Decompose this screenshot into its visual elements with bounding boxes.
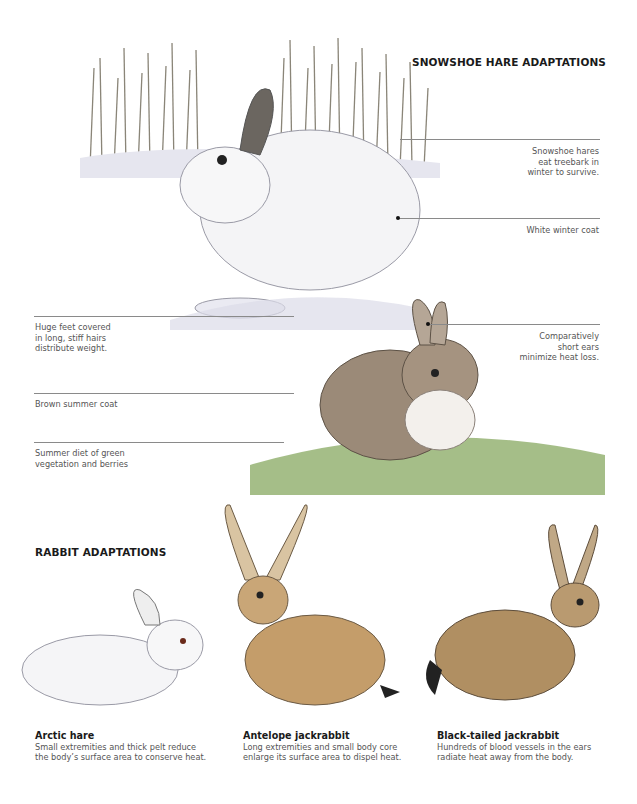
species-name: Arctic hare <box>35 730 206 741</box>
leader-line-summer-diet <box>34 442 284 443</box>
snowshoe-section-title: SNOWSHOE HARE ADAPTATIONS <box>412 56 606 68</box>
leader-dot-winter-coat <box>396 216 400 220</box>
caption-summer-coat: Brown summer coat <box>35 399 117 410</box>
leader-line-winter-coat <box>398 218 600 219</box>
black-tailed-jackrabbit-illustration <box>420 520 610 720</box>
caption-winter-coat: White winter coat <box>526 225 599 236</box>
leader-line-feet <box>34 316 294 317</box>
antelope-jackrabbit-illustration <box>205 500 405 725</box>
caption-treebark: Snowshoe hares eat treebark in winter to… <box>527 146 599 178</box>
leader-line-treebark <box>400 139 600 140</box>
snowshoe-hare-winter-illustration <box>170 80 430 330</box>
leader-line-summer-coat <box>34 393 294 394</box>
rabbit-section-title: RABBIT ADAPTATIONS <box>35 546 166 558</box>
leader-line-ears <box>428 324 600 325</box>
arctic-hare-illustration <box>15 585 215 715</box>
species-antelope-jackrabbit: Antelope jackrabbit Long extremities and… <box>243 730 401 763</box>
caption-feet: Huge feet covered in long, stiff hairs d… <box>35 322 111 354</box>
leader-dot-ears <box>426 322 430 326</box>
species-arctic-hare: Arctic hare Small extremities and thick … <box>35 730 206 763</box>
species-name: Black-tailed jackrabbit <box>437 730 591 741</box>
species-name: Antelope jackrabbit <box>243 730 401 741</box>
caption-summer-diet: Summer diet of green vegetation and berr… <box>35 448 128 469</box>
caption-ears: Comparatively short ears minimize heat l… <box>520 331 599 363</box>
species-black-tailed-jackrabbit: Black-tailed jackrabbit Hundreds of bloo… <box>437 730 591 763</box>
